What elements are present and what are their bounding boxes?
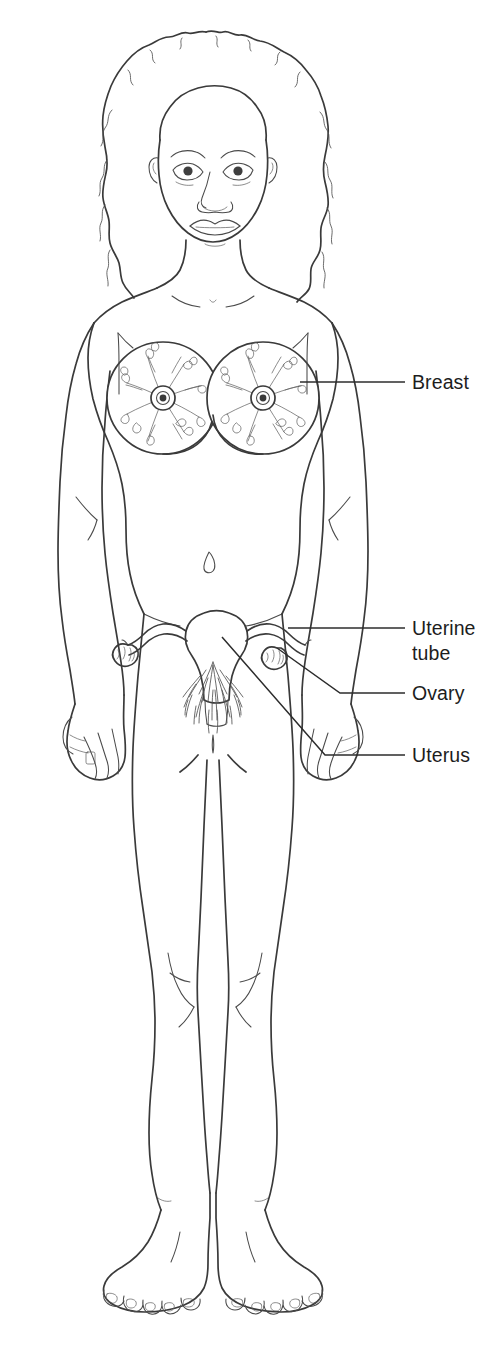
eyebrows: [171, 151, 255, 158]
label-uterus: Uterus: [412, 744, 470, 766]
labels: Breast Uterine tube Ovary Uterus: [412, 371, 476, 766]
label-ovary: Ovary: [412, 682, 465, 704]
face-outline: [149, 86, 277, 242]
eyes: [173, 163, 253, 185]
left-hand: [63, 695, 125, 780]
anatomy-figure: Breast Uterine tube Ovary Uterus: [0, 0, 498, 1370]
nose: [197, 172, 232, 213]
label-uterine-tube-line1: Uterine: [412, 617, 476, 639]
vulva: [212, 735, 214, 753]
label-breast: Breast: [412, 371, 469, 393]
anatomy-illustration: Breast Uterine tube Ovary Uterus: [0, 0, 498, 1370]
leader-line-uterus: [222, 637, 405, 755]
left-foot: [103, 1193, 210, 1314]
knees: [168, 953, 262, 1027]
ovary-left: [113, 644, 138, 666]
mouth: [190, 220, 240, 235]
uterine-tube-left: [122, 624, 187, 655]
pubic-hair: [183, 662, 243, 733]
navel: [204, 552, 215, 573]
ankles: [158, 1198, 268, 1201]
neck-and-shoulders: [94, 240, 332, 323]
right-nipple: [251, 386, 275, 410]
hair-texture: [99, 36, 333, 288]
right-foot: [216, 1193, 323, 1314]
hair-outline: [103, 31, 329, 302]
leader-line-ovary: [277, 648, 405, 693]
left-nipple: [151, 386, 175, 410]
ovary-right: [262, 647, 287, 669]
chin-crease: [205, 244, 225, 246]
label-uterine-tube-line2: tube: [412, 642, 450, 664]
